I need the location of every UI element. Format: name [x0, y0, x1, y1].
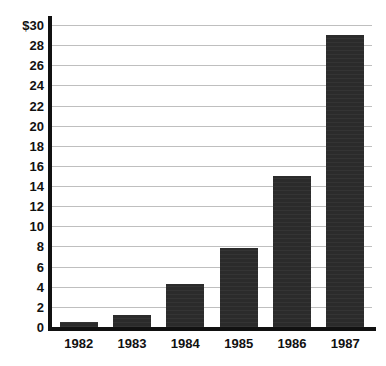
gridline: [52, 25, 372, 26]
gridline: [52, 146, 372, 147]
x-axis-tick-label: 1987: [319, 337, 372, 350]
gridline: [52, 186, 372, 187]
bar-chart: $302826242220181614121086420 19821983198…: [0, 0, 386, 366]
x-axis-line: [48, 327, 376, 331]
y-axis-tick-label: 6: [2, 261, 44, 274]
gridline: [52, 206, 372, 207]
y-axis-tick-label: 16: [2, 160, 44, 173]
y-axis-tick-label: 10: [2, 220, 44, 233]
y-axis-tick-label: 0: [2, 321, 44, 334]
y-axis-tick-label: 18: [2, 140, 44, 153]
y-axis-tick-labels: $302826242220181614121086420: [0, 0, 44, 366]
y-axis-tick-label: 26: [2, 59, 44, 72]
y-axis-tick-label: 22: [2, 100, 44, 113]
gridline: [52, 65, 372, 66]
bar: [113, 315, 151, 327]
y-axis-tick-label: 2: [2, 301, 44, 314]
x-axis-tick-labels: 198219831984198519861987: [52, 337, 372, 357]
y-axis-tick-label: 24: [2, 79, 44, 92]
y-axis-tick-label: 8: [2, 240, 44, 253]
gridline: [52, 126, 372, 127]
x-axis-tick-label: 1985: [212, 337, 265, 350]
y-axis-tick-label: 4: [2, 281, 44, 294]
x-axis-tick-label: 1986: [265, 337, 318, 350]
gridline: [52, 106, 372, 107]
y-axis-tick-label: 20: [2, 120, 44, 133]
x-axis-tick-label: 1983: [105, 337, 158, 350]
gridline: [52, 166, 372, 167]
bar: [220, 248, 258, 327]
plot-area: [52, 25, 372, 327]
gridline: [52, 85, 372, 86]
gridline: [52, 246, 372, 247]
y-axis-tick-label: 14: [2, 180, 44, 193]
y-axis-tick-label: 12: [2, 200, 44, 213]
gridline: [52, 45, 372, 46]
x-axis-tick-label: 1982: [52, 337, 105, 350]
gridline: [52, 267, 372, 268]
gridline: [52, 287, 372, 288]
x-axis-tick-label: 1984: [159, 337, 212, 350]
y-axis-tick-label: $30: [2, 19, 44, 32]
bar: [273, 176, 311, 327]
gridline: [52, 226, 372, 227]
bar: [326, 35, 364, 327]
bar: [60, 322, 98, 327]
y-axis-tick-label: 28: [2, 39, 44, 52]
bar: [166, 284, 204, 327]
gridline: [52, 307, 372, 308]
